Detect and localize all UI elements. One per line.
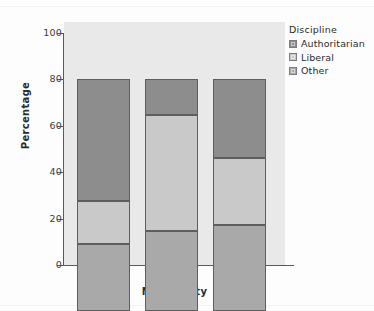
bar-dutch-segment-other[interactable] <box>145 231 198 311</box>
legend-label-other: Other <box>301 65 328 76</box>
legend-swatch-authoritarian <box>289 40 297 48</box>
y-tick-label-0: 0 <box>56 259 62 270</box>
bar-australian-segment-liberal[interactable] <box>213 158 266 225</box>
legend-title: Discipline <box>289 24 373 35</box>
bar-dutch-segment-liberal[interactable] <box>145 115 198 231</box>
legend-item-other[interactable]: Other <box>289 65 373 76</box>
legend-label-liberal: Liberal <box>301 52 334 63</box>
legend-item-authoritarian[interactable]: Authoritarian <box>289 38 373 49</box>
bar-dutch[interactable] <box>145 46 198 311</box>
bar-british-segment-liberal[interactable] <box>77 201 130 244</box>
y-axis-title: Percentage <box>20 71 31 161</box>
legend-item-liberal[interactable]: Liberal <box>289 52 373 63</box>
bar-british[interactable] <box>77 46 130 311</box>
y-tick-label-80: 80 <box>50 73 63 84</box>
y-tick-label-20: 20 <box>50 213 63 224</box>
bar-british-segment-authoritarian[interactable] <box>77 79 130 201</box>
legend: Discipline Authoritarian Liberal Other <box>289 24 373 79</box>
legend-swatch-liberal <box>289 53 297 61</box>
bar-australian-segment-authoritarian[interactable] <box>213 79 266 158</box>
legend-label-authoritarian: Authoritarian <box>301 38 365 49</box>
y-tick-label-40: 40 <box>50 166 63 177</box>
y-axis-line <box>63 33 64 266</box>
bar-australian[interactable] <box>213 46 266 311</box>
page-artifact-line <box>0 6 374 7</box>
y-tick-label-60: 60 <box>50 120 63 131</box>
bar-australian-segment-other[interactable] <box>213 225 266 311</box>
bar-dutch-segment-authoritarian[interactable] <box>145 79 198 115</box>
y-tick-label-100: 100 <box>43 27 62 38</box>
bar-british-segment-other[interactable] <box>77 244 130 311</box>
legend-swatch-other <box>289 67 297 75</box>
chart-figure: 100 80 60 40 20 0 British Dutch Australi… <box>0 0 374 311</box>
